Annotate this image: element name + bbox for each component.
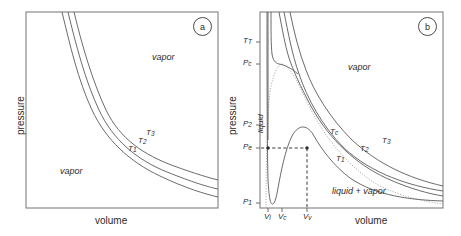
panel-a-isotherm-label-t3: T3	[146, 129, 155, 138]
panel-b-tag: b	[418, 17, 437, 36]
panel-b-x-tick-vc: Vc	[278, 213, 287, 222]
panel-a-region-vapor-lower: vapor	[60, 167, 83, 176]
panel-b-critical-isotherm	[279, 12, 443, 196]
panel-a-region-vapor-upper: vapor	[152, 53, 175, 62]
panel-b-y-tick-pc: Pc	[243, 59, 252, 68]
dome-right-branch	[282, 64, 443, 204]
panel-b-isotherm-label-t1: T1	[336, 155, 345, 164]
isotherm-t1-curve-a	[62, 12, 218, 197]
panel-b-x-axis-title: volume	[355, 216, 387, 226]
panel-b-y-axis-title: pressure	[228, 96, 238, 135]
panel-b-x-tick-vv: Vv	[303, 213, 312, 222]
panel-a-isotherm-label-t2: T2	[138, 137, 147, 146]
isotherm-tt-curve-b	[271, 12, 298, 74]
isotherm-t2-curve-a	[68, 12, 218, 189]
isotherm-t2-curve-b	[284, 12, 443, 191]
pressure-volume-figure: a vapor vapor T3 T2 T1 volume pressure b…	[0, 0, 461, 236]
panel-b-x-tick-vl: Vl	[264, 213, 271, 222]
panel-a-frame	[26, 12, 218, 208]
panel-a-x-axis-title: volume	[95, 216, 127, 226]
panel-b-y-tick-p1: P1	[243, 198, 252, 207]
panel-b-y-tick-tt: TT	[243, 37, 252, 46]
isotherm-t3-curve-b	[290, 12, 443, 186]
panel-b-isotherm-label-t2: T2	[360, 145, 369, 154]
panel-b-y-tick-pe: Pe	[243, 143, 252, 152]
panel-a-isotherm-label-t1: T1	[128, 145, 137, 154]
panel-b-region-liquid-vapor: liquid + vapor	[332, 187, 386, 196]
point-vl-pe	[266, 146, 269, 149]
panel-b-isotherm-label-t3: T3	[382, 137, 391, 146]
isotherm-t1-vdw-loop	[267, 12, 443, 204]
isotherm-tc-curve-b	[279, 12, 443, 196]
panel-b-region-liquid: liquid	[257, 114, 265, 133]
isotherm-t3-curve-a	[74, 12, 218, 180]
panel-a-y-axis-title: pressure	[16, 96, 26, 135]
panel-b-x-ticks	[268, 208, 307, 212]
panel-a-isotherms	[62, 12, 218, 197]
panel-b-y-tick-p2: P2	[243, 120, 252, 129]
panel-b-subcritical-isotherm	[267, 12, 443, 204]
panel-a-tag: a	[193, 17, 212, 36]
point-vv-pe	[305, 146, 308, 149]
panel-b-isotherm-label-tc: Tc	[330, 128, 338, 137]
panel-b-region-vapor: vapor	[348, 63, 371, 72]
panel-b-supercritical-isotherms	[284, 12, 443, 191]
